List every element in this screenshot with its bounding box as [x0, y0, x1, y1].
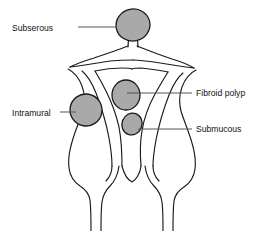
uterus-outline: [68, 46, 196, 231]
label-intramural: Intramural: [12, 109, 51, 118]
external-os: [122, 166, 141, 182]
fibroid-intramural: [67, 91, 104, 128]
cavity-roof-right: [132, 68, 168, 72]
fibroid-diagram-canvas: Subserous Intramural Fibroid polyp Submu…: [0, 0, 263, 231]
fibroid-subserous: [113, 6, 153, 44]
label-fibroid-polyp: Fibroid polyp: [196, 89, 245, 98]
label-subserous: Subserous: [12, 24, 53, 33]
uterus-wall-left-outer: [68, 69, 91, 231]
label-submucous: Submucous: [196, 125, 241, 134]
broad-ligament-left-upper: [70, 46, 128, 67]
broad-ligament-right-upper: [137, 46, 194, 68]
fibroid-masses: [67, 6, 152, 138]
fibroid-polyp: [112, 80, 140, 110]
cervical-canal-right: [145, 166, 163, 231]
internal-os-left: [106, 166, 112, 181]
uterus-wall-right-outer: [173, 70, 196, 231]
cavity-roof-left: [95, 68, 132, 71]
myometrium-inner-right: [153, 73, 183, 166]
internal-os-right: [153, 166, 159, 181]
